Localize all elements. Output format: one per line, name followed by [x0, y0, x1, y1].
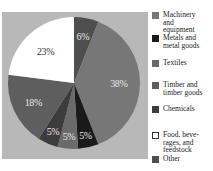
pie-label-chemicals: 5% [47, 126, 60, 137]
legend-swatch [152, 82, 159, 89]
legend-label: Textiles [163, 59, 213, 67]
legend-label: Food, beve- rages, and feedstock [163, 131, 213, 154]
pie-label-food: 23% [37, 45, 54, 56]
legend: Machinery and equipment Metals and metal… [152, 0, 213, 171]
pie-label-metals: 5% [79, 129, 92, 140]
legend-label: Other [163, 155, 213, 163]
legend-label: Timber and timber goods [163, 81, 213, 96]
legend-swatch [152, 106, 159, 113]
legend-swatch [152, 132, 159, 139]
legend-swatch [152, 12, 159, 19]
legend-swatch [152, 156, 159, 163]
legend-swatch [152, 35, 159, 42]
pie-label-textiles: 5% [63, 130, 76, 141]
chart-panel: 6%38%5%5%5%18%23% [2, 12, 148, 159]
pie-label-machinery: 38% [110, 78, 127, 89]
legend-label: Machinery and equipment [163, 11, 213, 34]
legend-label: Chemicals [163, 105, 213, 113]
pie-label-other: 6% [77, 31, 90, 42]
legend-swatch [152, 60, 159, 67]
legend-label: Metals and metal goods [163, 34, 213, 49]
pie-label-timber: 18% [25, 97, 42, 108]
